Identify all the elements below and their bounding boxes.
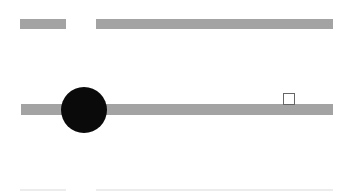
skeleton-panel (0, 0, 358, 192)
slider-thumb[interactable] (61, 87, 107, 133)
value-placeholder (96, 19, 333, 29)
footer-left-placeholder (20, 189, 66, 191)
footer-right-placeholder (96, 189, 333, 191)
checkbox[interactable] (283, 93, 295, 105)
label-placeholder (20, 19, 66, 29)
